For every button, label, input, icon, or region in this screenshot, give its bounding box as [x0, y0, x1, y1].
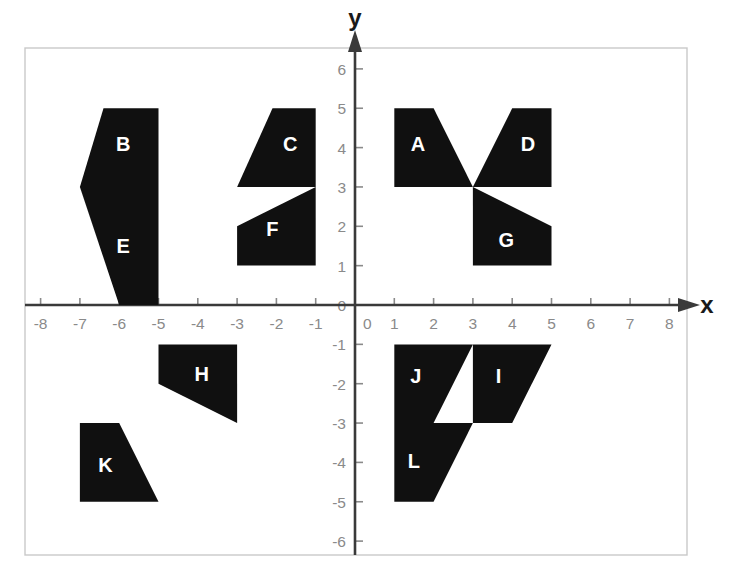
shape-letter-label: C: [283, 133, 297, 155]
x-tick-label: 4: [508, 315, 517, 332]
shape-polygon: [473, 344, 552, 423]
shape-letter-label: A: [411, 133, 425, 155]
x-tick-label: -2: [270, 315, 284, 332]
shape-polygon: [394, 423, 473, 502]
plot-canvas: -8-7-6-5-4-3-2-1012345678 -6-5-4-3-2-101…: [0, 0, 744, 571]
shape-letter-label: E: [116, 235, 129, 257]
shape-polygon: [473, 108, 552, 187]
y-tick-label: 6: [337, 61, 346, 78]
y-tick-label: -4: [332, 454, 346, 471]
y-axis-arrowhead: [348, 30, 362, 52]
shape-letter-label: K: [98, 454, 113, 476]
y-tick-label: 1: [337, 258, 346, 275]
shape-letter-label: H: [195, 363, 209, 385]
x-tick-label: 1: [390, 315, 399, 332]
shape-e: E: [80, 187, 159, 305]
shape-polygon: [473, 187, 552, 266]
y-tick-label: -5: [332, 494, 346, 511]
shape-letter-label: B: [116, 133, 130, 155]
x-tick-label: -6: [112, 315, 126, 332]
shape-polygon: [237, 108, 316, 187]
y-tick-label: 5: [337, 100, 346, 117]
shape-j: J: [394, 344, 473, 423]
y-tick-label: -1: [332, 336, 346, 353]
y-tick-label: 2: [337, 218, 346, 235]
y-tick-label: -2: [332, 376, 346, 393]
x-tick-label: 3: [469, 315, 478, 332]
shape-letter-label: F: [266, 218, 278, 240]
shape-d: D: [473, 108, 552, 187]
x-tick-label: 6: [586, 315, 595, 332]
shape-polygon: [80, 423, 159, 502]
shape-b: B: [80, 108, 159, 187]
shape-letter-label: I: [496, 365, 502, 387]
shape-polygon: [394, 108, 473, 187]
shape-letter-label: G: [499, 229, 515, 251]
x-tick-label: 7: [626, 315, 635, 332]
x-tick-label: -4: [191, 315, 205, 332]
shape-k: K: [80, 423, 159, 502]
shape-letter-label: L: [408, 450, 420, 472]
coordinate-plane-figure: -8-7-6-5-4-3-2-1012345678 -6-5-4-3-2-101…: [0, 0, 744, 571]
shape-l: L: [394, 423, 473, 502]
shape-f: F: [237, 187, 316, 266]
y-tick-label: -6: [332, 533, 346, 550]
y-axis-label: y: [348, 4, 362, 31]
shape-i: I: [473, 344, 552, 423]
x-tick-label: -7: [73, 315, 87, 332]
x-tick-label: 2: [429, 315, 438, 332]
y-tick-label: 4: [337, 140, 346, 157]
y-tick-label: -3: [332, 415, 346, 432]
shape-c: C: [237, 108, 316, 187]
shape-letter-label: J: [410, 365, 421, 387]
y-tick-label: 3: [337, 179, 346, 196]
shape-h: H: [159, 344, 238, 423]
x-tick-label: -8: [34, 315, 48, 332]
x-tick-label: 5: [547, 315, 556, 332]
x-axis-arrowhead: [678, 298, 700, 312]
x-tick-label: -5: [152, 315, 166, 332]
x-tick-label: -1: [309, 315, 323, 332]
x-tick-label: -3: [230, 315, 244, 332]
shape-polygon: [394, 344, 473, 423]
shape-g: G: [473, 187, 552, 266]
x-axis-label: x: [700, 291, 714, 318]
shape-letter-label: D: [521, 133, 535, 155]
shape-a: A: [394, 108, 473, 187]
x-tick-label: 0: [363, 315, 372, 332]
x-tick-label: 8: [665, 315, 674, 332]
